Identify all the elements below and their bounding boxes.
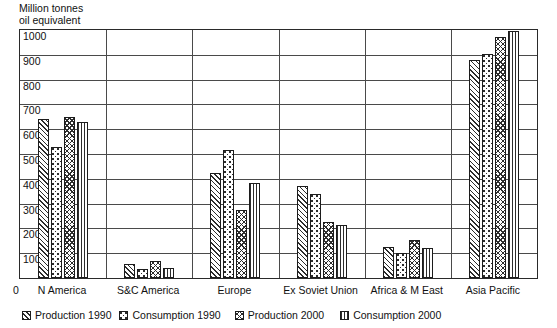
bar: [396, 253, 407, 278]
legend-item: Production 2000: [235, 309, 324, 321]
x-axis-category-label: Africa & M East: [364, 283, 450, 297]
bar: [210, 173, 221, 278]
bar: [223, 150, 234, 278]
bars-layer: [20, 30, 537, 278]
bar: [150, 261, 161, 278]
bar: [51, 147, 62, 278]
x-axis-category-label: N America: [19, 283, 105, 297]
x-axis-category-label: Europe: [191, 283, 277, 297]
bar: [482, 54, 493, 278]
y-axis-title: Million tonnes oil equivalent: [19, 2, 83, 26]
bar-group: [20, 30, 106, 278]
bar: [383, 247, 394, 278]
bar: [323, 222, 334, 278]
legend-item: Production 1990: [22, 309, 111, 321]
legend-swatch-icon: [235, 311, 244, 320]
x-axis-category-label: Ex Soviet Union: [278, 283, 364, 297]
legend-item: Consumption 2000: [340, 309, 441, 321]
bar: [297, 186, 308, 278]
bar: [508, 31, 519, 278]
legend-item: Consumption 1990: [119, 309, 220, 321]
legend-label: Production 1990: [35, 309, 111, 321]
legend-label: Consumption 2000: [353, 309, 441, 321]
legend-swatch-icon: [22, 311, 31, 320]
plot-area: 1002003004005006007008009001000: [19, 29, 538, 279]
bar: [137, 269, 148, 278]
chart-legend: Production 1990Consumption 1990Productio…: [22, 308, 441, 322]
bar: [163, 268, 174, 278]
bar-group: [106, 30, 192, 278]
bar: [310, 194, 321, 278]
bar: [236, 210, 247, 278]
bar-group: [365, 30, 451, 278]
bar: [336, 225, 347, 278]
bar-group: [192, 30, 278, 278]
bar-group: [279, 30, 365, 278]
bar: [64, 117, 75, 278]
x-axis-category-label: S&C America: [105, 283, 191, 297]
legend-swatch-icon: [119, 311, 128, 320]
x-axis-labels: N AmericaS&C AmericaEuropeEx Soviet Unio…: [0, 283, 557, 299]
bar: [38, 119, 49, 278]
bar: [409, 240, 420, 278]
legend-label: Production 2000: [248, 309, 324, 321]
legend-swatch-icon: [340, 311, 349, 320]
x-axis-category-label: Asia Pacific: [450, 283, 536, 297]
legend-label: Consumption 1990: [132, 309, 220, 321]
bar: [124, 264, 135, 278]
bar: [249, 183, 260, 278]
bar: [495, 37, 506, 278]
bar: [77, 122, 88, 278]
bar-group: [451, 30, 537, 278]
bar: [422, 248, 433, 278]
bar: [469, 60, 480, 278]
